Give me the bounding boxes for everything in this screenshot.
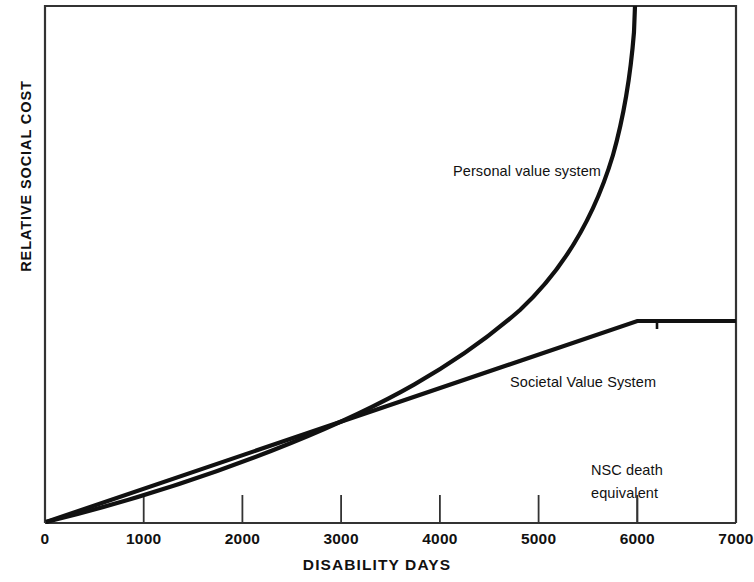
x-tick-label-5000: 5000: [521, 530, 556, 548]
x-tick-label-4000: 4000: [422, 530, 457, 548]
nsc-label-line-1: NSC death: [591, 459, 663, 482]
nsc-death-equivalent-label: NSC death equivalent: [591, 459, 663, 505]
personal-value-system-curve: [46, 6, 635, 522]
personal-value-system-label: Personal value system: [453, 163, 601, 179]
x-tick-label-2000: 2000: [225, 530, 260, 548]
x-axis-ticks: [144, 495, 638, 523]
y-axis-title: RELATIVE SOCIAL COST: [18, 66, 34, 286]
x-axis-title: DISABILITY DAYS: [0, 556, 754, 574]
societal-value-system-label: Societal Value System: [510, 374, 656, 390]
x-tick-label-1000: 1000: [126, 530, 161, 548]
chart-figure: 0 1000 2000 3000 4000 5000 6000 7000 DIS…: [0, 0, 754, 582]
nsc-label-line-2: equivalent: [591, 482, 663, 505]
x-tick-label-0: 0: [41, 530, 50, 548]
plot-frame: [45, 6, 736, 523]
x-tick-label-6000: 6000: [620, 530, 655, 548]
x-tick-label-7000: 7000: [718, 530, 753, 548]
x-tick-label-3000: 3000: [323, 530, 358, 548]
